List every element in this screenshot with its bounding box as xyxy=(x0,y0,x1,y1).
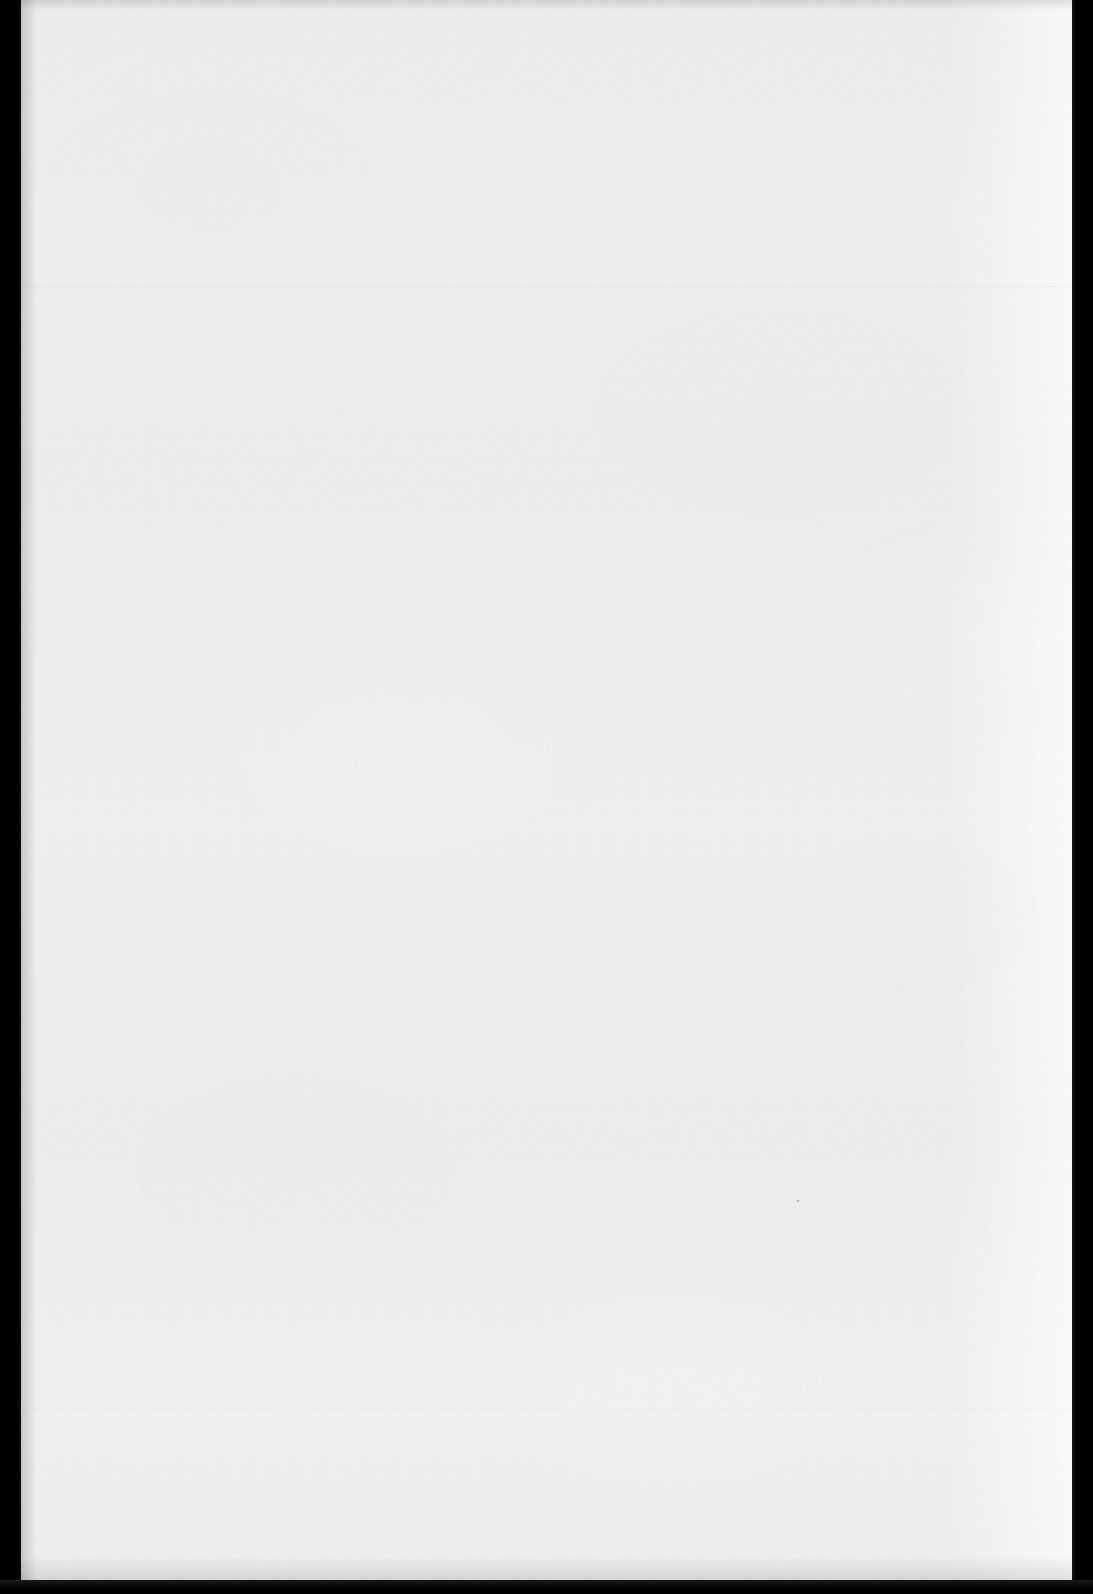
scanner-band-left xyxy=(0,0,21,1594)
paper-crease-upper xyxy=(21,285,1072,288)
scanner-band-bottom xyxy=(0,1580,1093,1594)
scanned-page-sheet xyxy=(21,0,1072,1580)
paper-crease-lower xyxy=(21,1408,1072,1411)
paper-mottle-texture xyxy=(21,0,1072,1580)
scanner-band-right xyxy=(1072,0,1093,1594)
paper-grain-texture xyxy=(21,0,1072,1580)
scan-canvas: Blank scanned page with paper grain text… xyxy=(0,0,1093,1594)
dust-speck xyxy=(797,1200,799,1202)
